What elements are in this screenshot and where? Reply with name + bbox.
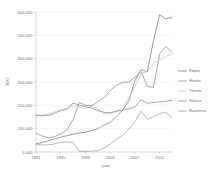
series-line-trieste: [36, 54, 172, 116]
x-tick-label: 1995: [56, 155, 66, 160]
x-axis-title: year: [102, 163, 111, 168]
legend-label-trieste: Trieste: [189, 88, 202, 93]
legend-label-ravenna: Ravenna: [189, 108, 206, 113]
series-line-ravenna: [36, 111, 172, 151]
legend-label-rijeka: Rijeka: [189, 78, 201, 83]
legend-label-koper: Koper: [189, 68, 201, 73]
x-tick-label: 2011: [155, 155, 165, 160]
y-tick-label: 600,000: [18, 10, 34, 15]
series-line-venice: [36, 100, 172, 116]
x-tick-label: 1991: [31, 155, 41, 160]
y-tick-label: 200,000: [18, 103, 34, 108]
data-series-group: [36, 15, 172, 152]
y-tick-label: 100,000: [18, 126, 34, 131]
chart-legend: KoperRijekaTriesteVeniceRavenna: [178, 68, 206, 113]
y-tick-label: 500,000: [18, 33, 34, 38]
y-tick-label: 300,000: [18, 80, 34, 85]
chart-figure: 0,000100,000200,000300,000400,000500,000…: [0, 0, 221, 175]
y-axis-title: TEU: [5, 78, 10, 87]
y-axis-ticks: 0,000100,000200,000300,000400,000500,000…: [18, 10, 36, 155]
legend-label-venice: Venice: [189, 98, 202, 103]
line-chart: 0,000100,000200,000300,000400,000500,000…: [0, 0, 221, 175]
y-tick-label: 400,000: [18, 56, 34, 61]
series-line-rijeka: [36, 47, 172, 138]
series-line-koper: [36, 15, 172, 144]
x-axis-ticks: 199119951999200320072011: [31, 152, 164, 160]
x-tick-label: 2003: [106, 155, 116, 160]
x-tick-label: 2007: [130, 155, 140, 160]
x-tick-label: 1999: [81, 155, 91, 160]
y-tick-label: 0,000: [22, 150, 33, 155]
